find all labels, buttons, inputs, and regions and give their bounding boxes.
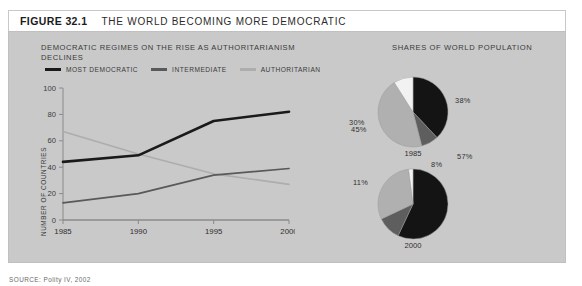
legend-item-most-democratic: MOST DEMOCRATIC xyxy=(45,66,138,73)
svg-text:20: 20 xyxy=(48,189,56,198)
legend-swatch-intermediate xyxy=(151,68,167,71)
figure-number: FIGURE 32.1 xyxy=(9,15,87,27)
pie-slice-percent-label: 38% xyxy=(455,96,471,105)
chart-panel: DEMOCRATIC REGIMES ON THE RISE AS AUTHOR… xyxy=(8,31,566,263)
svg-text:1985: 1985 xyxy=(54,227,72,236)
svg-text:80: 80 xyxy=(48,110,56,119)
svg-text:60: 60 xyxy=(48,136,56,145)
pie-year-label: 2000 xyxy=(405,241,422,250)
pie-charts-area: 19852000 38%8%45%57%11%30% xyxy=(339,56,567,260)
legend-swatch-authoritarian xyxy=(240,68,256,71)
svg-text:0: 0 xyxy=(52,216,56,225)
legend-label-intermediate: INTERMEDIATE xyxy=(172,66,227,73)
svg-text:40: 40 xyxy=(48,163,56,172)
legend-item-intermediate: INTERMEDIATE xyxy=(151,66,227,73)
figure-container: FIGURE 32.1 THE WORLD BECOMING MORE DEMO… xyxy=(0,0,582,286)
figure-header: FIGURE 32.1 THE WORLD BECOMING MORE DEMO… xyxy=(8,10,566,31)
svg-text:2000: 2000 xyxy=(280,227,295,236)
pie-charts-svg: 19852000 xyxy=(339,56,567,260)
line-chart-svg: 0204060801001985199019952000 xyxy=(27,80,295,252)
line-plot-area: NUMBER OF COUNTRIES 02040608010019851990… xyxy=(27,80,295,252)
pie-year-label: 1985 xyxy=(405,149,422,158)
figure-title: THE WORLD BECOMING MORE DEMOCRATIC xyxy=(87,16,346,27)
legend-label-most-democratic: MOST DEMOCRATIC xyxy=(66,66,138,73)
legend-label-authoritarian: AUTHORITARIAN xyxy=(261,66,321,73)
pie-slice-percent-label: 8% xyxy=(431,160,442,169)
line-chart-legend: MOST DEMOCRATIC INTERMEDIATE AUTHORITARI… xyxy=(45,66,334,73)
y-axis-label: NUMBER OF COUNTRIES xyxy=(40,132,47,252)
legend-swatch-most-democratic xyxy=(45,68,61,71)
svg-text:1990: 1990 xyxy=(130,227,148,236)
line-chart-title: DEMOCRATIC REGIMES ON THE RISE AS AUTHOR… xyxy=(41,43,316,63)
pie-slice-percent-label: 30% xyxy=(349,118,365,127)
pie-section-title: SHARES OF WORLD POPULATION xyxy=(392,43,532,52)
pie-slice-percent-label: 57% xyxy=(457,152,473,161)
legend-item-authoritarian: AUTHORITARIAN xyxy=(240,66,321,73)
svg-text:1995: 1995 xyxy=(205,227,223,236)
svg-text:100: 100 xyxy=(43,84,56,93)
source-note: SOURCE: Polity IV, 2002 xyxy=(9,276,91,283)
pie-slice-percent-label: 11% xyxy=(353,178,368,187)
